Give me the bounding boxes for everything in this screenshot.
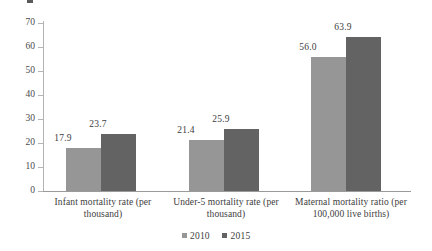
bar-2010-infant-mortality[interactable]	[66, 148, 101, 191]
y-tick-label-30: 30	[4, 114, 35, 124]
legend-swatch-2010-icon	[182, 233, 187, 238]
category-label-under5-mortality: Under-5 mortality rate (per thousand)	[165, 196, 287, 220]
legend-label-2015: 2015	[231, 231, 251, 242]
value-label-2010-maternal: 56.0	[288, 42, 328, 52]
y-tick-label-60: 60	[4, 42, 35, 52]
value-label-2015-maternal: 63.9	[323, 22, 363, 32]
legend-item-2010[interactable]: 2010	[182, 231, 210, 242]
y-tick-label-10: 10	[4, 162, 35, 172]
y-tick-label-0: 0	[4, 186, 35, 196]
value-label-2015-infant: 23.7	[78, 119, 118, 129]
chart-legend: 2010 2015	[0, 231, 432, 242]
legend-label-2010: 2010	[190, 231, 210, 242]
bar-group-under5-mortality	[189, 23, 269, 191]
legend-item-2015[interactable]: 2015	[222, 231, 250, 242]
bar-2010-under5-mortality[interactable]	[189, 140, 224, 191]
x-axis-line	[43, 191, 411, 192]
value-label-2010-under5: 21.4	[166, 125, 206, 135]
category-label-infant-mortality: Infant mortality rate (per thousand)	[43, 196, 163, 220]
y-tick-label-40: 40	[4, 90, 35, 100]
y-tick-label-70: 70	[4, 18, 35, 28]
bar-2015-maternal-mortality[interactable]	[346, 37, 381, 191]
bar-2015-under5-mortality[interactable]	[224, 129, 259, 191]
legend-swatch-2015-icon	[222, 233, 227, 238]
value-label-2010-infant: 17.9	[43, 133, 83, 143]
bar-chart: 70 60 50 40 30 20 10 0 17.9 23.7 21.4 25…	[0, 0, 432, 251]
y-tick-label-20: 20	[4, 138, 35, 148]
scan-artifact-mark	[27, 0, 33, 3]
bar-group-infant-mortality	[66, 23, 146, 191]
y-tick-label-50: 50	[4, 66, 35, 76]
plot-area	[43, 23, 411, 191]
bar-2015-infant-mortality[interactable]	[101, 134, 136, 191]
value-label-2015-under5: 25.9	[201, 114, 241, 124]
bar-2010-maternal-mortality[interactable]	[311, 57, 346, 191]
category-label-maternal-mortality: Maternal mortality ratio (per 100,000 li…	[288, 196, 414, 220]
